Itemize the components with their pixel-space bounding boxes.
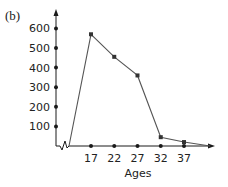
y-tick-mark [54,105,58,109]
data-point [182,140,186,144]
panel-label: (b) [5,8,20,23]
data-point [159,135,163,139]
y-tick-label: 500 [29,42,50,55]
y-tick-label: 200 [29,101,50,114]
x-tick-label: 27 [131,152,145,165]
x-tick-label: 17 [84,152,98,165]
line-chart: (b) 100200300400500600 1722273237 Ages [0,0,228,187]
data-point [89,32,93,36]
y-axis-arrow-icon [54,9,59,16]
data-point [112,55,116,59]
y-tick-label: 100 [29,120,50,133]
x-tick-mark [182,144,186,148]
y-axis: 100200300400500600 [29,9,59,146]
x-tick-label: 37 [177,152,191,165]
data-series [69,32,210,146]
x-tick-label: 32 [154,152,168,165]
y-tick-label: 400 [29,62,50,75]
y-tick-label: 600 [29,22,50,35]
y-tick-mark [54,66,58,70]
x-tick-mark [136,144,140,148]
x-tick-mark [112,144,116,148]
y-tick-mark [54,46,58,50]
x-axis-title: Ages [124,167,151,180]
x-axis: 1722273237 [56,141,215,165]
data-point [136,73,140,77]
y-tick-mark [54,85,58,89]
x-tick-mark [159,144,163,148]
x-tick-mark [89,144,93,148]
y-tick-label: 300 [29,81,50,94]
y-tick-mark [54,124,58,128]
y-tick-mark [54,26,58,30]
x-tick-label: 22 [107,152,121,165]
